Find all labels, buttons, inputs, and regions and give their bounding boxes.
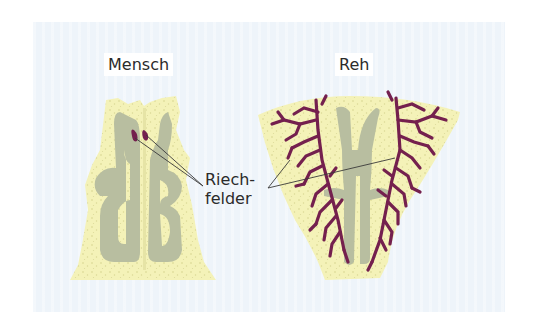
deer-tissue-outline [258,96,460,280]
human-nasal-section [70,96,216,280]
label-human: Mensch [104,53,173,76]
label-olfactory-line1: Riech- [205,170,255,189]
label-deer: Reh [335,53,373,76]
label-olfactory-fields: Riech- felder [205,170,255,208]
label-olfactory-line2: felder [205,189,255,208]
deer-nasal-section [258,92,460,280]
nasal-cavity-comparison-diagram [0,0,533,329]
